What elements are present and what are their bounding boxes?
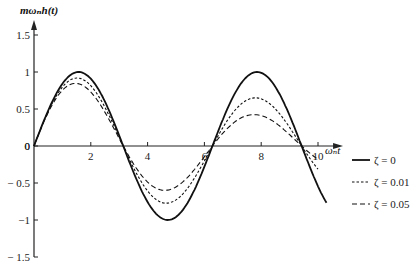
y-tick-label: 1.5 — [16, 29, 30, 41]
legend: ζ = 0ζ = 0.01ζ = 0.05 — [352, 154, 410, 211]
x-tick-label: 2 — [88, 150, 94, 162]
y-tick-label: − 1.5 — [7, 251, 30, 263]
x-tick-label: 10 — [313, 150, 325, 162]
x-axis-title: ωₙt — [325, 144, 341, 156]
series-line-2 — [34, 83, 318, 190]
x-tick-label: 8 — [258, 150, 264, 162]
x-tick-label: 4 — [145, 150, 151, 162]
legend-label-1: ζ = 0.01 — [374, 176, 410, 189]
y-tick-label: 0.5 — [16, 103, 30, 115]
series-line-1 — [34, 78, 318, 203]
y-tick-label: −1 — [18, 214, 30, 226]
y-axis-title: mωₙh(t) — [20, 4, 58, 17]
axes: 1.510.50− 0.5−1− 1.52468100 — [7, 20, 343, 263]
legend-label-0: ζ = 0 — [374, 154, 396, 167]
y-tick-label: − 0.5 — [7, 177, 30, 189]
origin-label: 0 — [25, 140, 31, 152]
y-tick-label: 1 — [25, 66, 31, 78]
chart: 1.510.50− 0.5−1− 1.52468100 ζ = 0ζ = 0.0… — [0, 0, 417, 274]
legend-label-2: ζ = 0.05 — [374, 198, 410, 211]
y-axis-arrow — [31, 20, 37, 30]
